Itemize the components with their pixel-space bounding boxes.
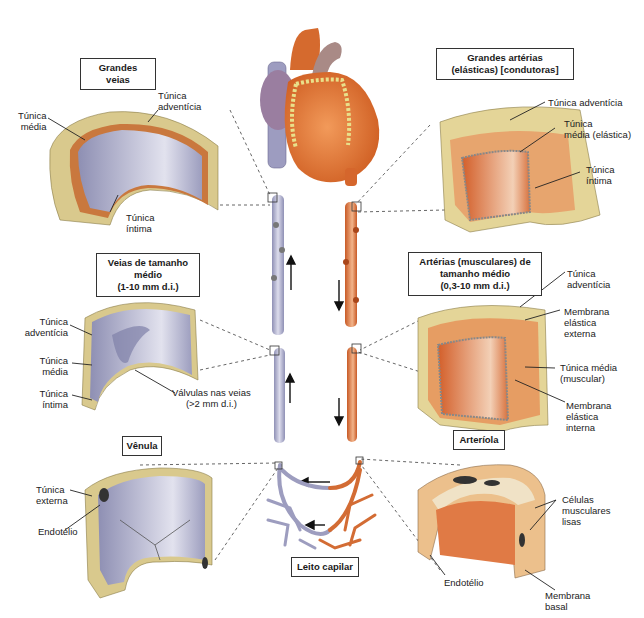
label-ar-celulas-musculares-lisas: Célulasmusculareslisas [562, 494, 611, 527]
label-ar-membrana-basal: Membranabasal [545, 590, 590, 612]
illustration-layer [0, 0, 644, 618]
label-gv-tunica-intima: Túnicaíntima [126, 212, 155, 234]
large-vein-section [50, 112, 218, 225]
label-vn-endotelio: Endotélio [38, 526, 78, 537]
label-ga-tunica-intima: Túnicaíntima [586, 164, 615, 186]
label-ga-tunica-adventicia: Túnica adventícia [548, 97, 622, 108]
arteriole-section [418, 465, 545, 578]
label-vm-tunica-adventicia: Túnicaadventícia [18, 316, 68, 338]
label-am-membrana-elastica-externa: Membranaelásticaexterna [564, 306, 609, 339]
title-leito-capilar: Leito capilar [291, 557, 359, 577]
title-arterias-medio: Artérias (musculares) de tamanho médio (… [408, 252, 542, 296]
medium-artery-section [418, 306, 548, 433]
venule-section [85, 468, 212, 598]
label-ga-tunica-media: Túnicamédia (elástica) [564, 118, 631, 140]
title-arteriola: Arteríola [453, 430, 505, 450]
label-am-tunica-media: Túnica média(muscular) [560, 362, 617, 384]
title-veias-medio: Veias de tamanho médio (1-10 mm d.i.) [96, 253, 200, 297]
label-gv-tunica-media: Túnicamédia [18, 110, 47, 132]
label-ar-endotelio: Endotélio [444, 577, 484, 588]
label-vm-tunica-media: Túnicamédia [30, 355, 68, 377]
title-venula: Vênula [122, 436, 162, 456]
label-am-membrana-elastica-interna: Membranaelásticainterna [566, 400, 611, 433]
label-vn-tunica-externa: Túnicaexterna [36, 484, 68, 506]
capillary-bed [268, 462, 375, 548]
heart-illustration [260, 28, 379, 186]
artery-tubes [343, 202, 361, 442]
label-gv-tunica-adventicia: Túnicaadventícia [158, 90, 201, 112]
vein-tubes [268, 193, 285, 443]
title-grandes-arterias: Grandes artérias (elásticas) [condutoras… [436, 48, 574, 80]
label-vm-tunica-intima: Túnicaíntima [30, 388, 68, 410]
label-am-tunica-adventicia: Túnicaadventícia [567, 268, 610, 290]
title-grandes-veias: Grandes veias [80, 58, 156, 90]
label-vm-valvulas: Válvulas nas veias(>2 mm d.i.) [172, 387, 251, 409]
